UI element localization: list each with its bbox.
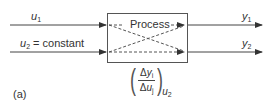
input-label-u2: u2 = constant (20, 37, 84, 50)
diagram-canvas (0, 0, 278, 112)
input-suffix: = constant (30, 37, 84, 49)
output-sub: 2 (248, 43, 252, 50)
gain-fraction: Δyi Δuj (138, 67, 155, 94)
output-label-y2: y2 (242, 37, 251, 50)
gain-denominator: Δuj (140, 81, 154, 94)
gain-expression: ( Δyi Δuj ) u2 (128, 65, 175, 95)
output-sub: 1 (248, 16, 252, 23)
input-label-u1: u1 (31, 10, 41, 23)
gain-numerator: Δyi (138, 67, 155, 81)
held-constant: u2 (162, 86, 171, 98)
process-label: Process (129, 18, 171, 30)
left-paren: ( (130, 65, 136, 95)
input-sub: 1 (37, 16, 41, 23)
panel-label: (a) (13, 88, 26, 100)
output-label-y1: y1 (242, 10, 251, 23)
